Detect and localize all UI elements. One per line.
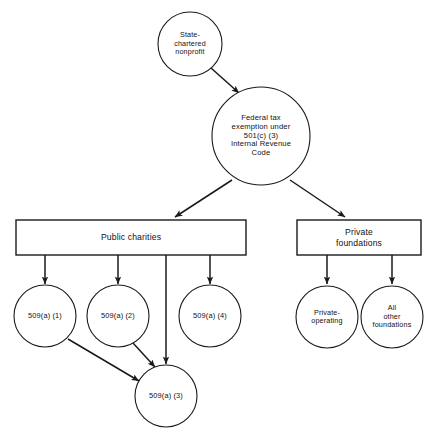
edge-federal-exemption-to-private-foundations xyxy=(290,180,345,217)
node-private-operating-shape[interactable] xyxy=(296,286,358,348)
node-state-chartered-nonprofit-shape[interactable] xyxy=(158,12,222,76)
node-public-charities-shape[interactable] xyxy=(16,220,246,255)
edge-509a2-to-509a3 xyxy=(133,343,155,367)
node-509a4-shape[interactable] xyxy=(179,285,241,347)
diagram-svg xyxy=(0,0,438,439)
node-all-other-foundations-shape[interactable] xyxy=(361,286,423,348)
node-509a3-shape[interactable] xyxy=(135,365,197,427)
diagram-canvas-container: State- chartered nonprofit Federal tax e… xyxy=(0,0,438,439)
node-509a1-shape[interactable] xyxy=(14,285,76,347)
edge-federal-exemption-to-public-charities xyxy=(175,180,232,217)
node-federal-exemption-shape[interactable] xyxy=(212,87,310,185)
node-private-foundations-shape[interactable] xyxy=(297,220,421,255)
node-509a2-shape[interactable] xyxy=(87,285,149,347)
edge-state-nonprofit-to-federal-exemption xyxy=(211,68,239,93)
